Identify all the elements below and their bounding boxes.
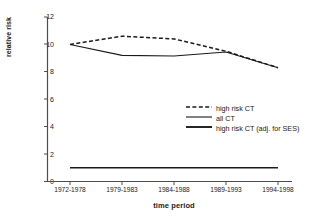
series-line-high-risk-ct	[70, 36, 278, 68]
series-line-all-ct	[70, 44, 278, 67]
chart-plot-area	[0, 0, 335, 220]
relative-risk-line-chart: relative risk 0 2 4 6 8 10 12 1972-1978 …	[0, 0, 335, 220]
